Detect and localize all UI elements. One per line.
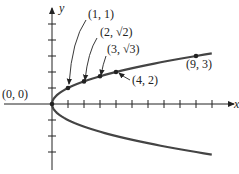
pointer-arrow [85,38,97,80]
point-label: (0, 0) [2,87,28,101]
point-marker [50,102,55,107]
point-label: (3, √3) [107,42,140,56]
parabola-diagram: xy (0, 0)(1, 1)(2, √2)(3, √3)(4, 2)(9, 3… [0,0,239,174]
point-marker [98,74,103,79]
y-axis-label: y [58,1,65,15]
pointer-arrow [69,20,86,84]
pointer-arrow [119,73,130,80]
x-axis-label: x [233,97,239,111]
point-marker [82,79,87,84]
point-label: (2, √2) [100,25,133,39]
pointer-arrow [101,56,106,75]
point-marker [66,86,71,91]
point-marker [114,70,119,75]
point-label: (4, 2) [132,73,158,87]
point-label: (1, 1) [88,7,114,21]
point-label: (9, 3) [186,57,212,71]
